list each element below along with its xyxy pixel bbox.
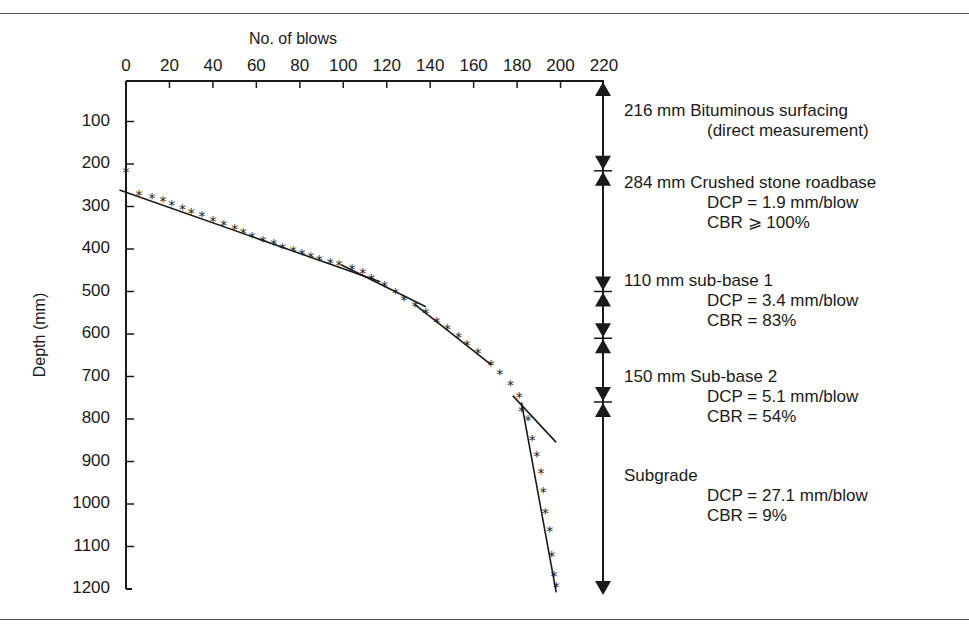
data-point-star: * <box>249 229 256 245</box>
data-point-star: * <box>392 285 399 301</box>
data-point-star: * <box>488 357 495 373</box>
arrow-down-icon <box>595 581 611 595</box>
data-point-star: * <box>335 257 342 273</box>
data-point-star: * <box>179 201 186 217</box>
data-point-star: * <box>199 208 206 224</box>
y-tick-label: 1000 <box>50 493 110 513</box>
data-point-star: * <box>279 240 286 256</box>
data-point-star: * <box>529 432 536 448</box>
annotation-head: 216 mm Bituminous surfacing <box>624 101 869 121</box>
data-point-star: * <box>298 246 305 262</box>
y-tick-label: 100 <box>50 111 110 131</box>
data-point-star: * <box>290 243 297 259</box>
x-tick-label: 60 <box>247 56 266 76</box>
data-point-star: * <box>542 505 549 521</box>
data-point-star: * <box>270 236 277 252</box>
arrow-down-icon <box>595 323 611 337</box>
data-point-star: * <box>411 298 418 314</box>
x-tick-label: 140 <box>416 56 444 76</box>
x-tick-label: 180 <box>503 56 531 76</box>
data-point-star: * <box>231 221 238 237</box>
data-point-star: * <box>537 465 544 481</box>
data-point-star: * <box>546 523 553 539</box>
y-tick-label: 1200 <box>50 578 110 598</box>
annotation-line: CBR = 83% <box>624 311 858 331</box>
data-point-star: * <box>553 579 560 595</box>
y-tick-label: 700 <box>50 366 110 386</box>
annotation-head: 110 mm sub-base 1 <box>624 271 858 291</box>
data-point-star: * <box>159 193 166 209</box>
data-point-star: * <box>316 252 323 268</box>
x-tick-label: 120 <box>373 56 401 76</box>
x-tick-label: 80 <box>290 56 309 76</box>
arrow-up-icon <box>595 293 611 307</box>
x-tick-label: 160 <box>459 56 487 76</box>
annotation-line: DCP = 3.4 mm/blow <box>624 291 858 311</box>
y-tick-label: 1100 <box>50 536 110 556</box>
data-point-star: * <box>123 164 130 180</box>
data-point-star: * <box>136 187 143 203</box>
data-point-star: * <box>533 448 540 464</box>
x-tick-label: 220 <box>590 56 618 76</box>
y-tick-label: 400 <box>50 238 110 258</box>
data-point-star: * <box>422 305 429 321</box>
annotation-roadbase: 284 mm Crushed stone roadbase DCP = 1.9 … <box>624 173 876 233</box>
x-axis-title: No. of blows <box>249 30 337 48</box>
data-point-star: * <box>259 233 266 249</box>
x-tick-label: 40 <box>203 56 222 76</box>
annotation-line: (direct measurement) <box>624 121 869 141</box>
y-tick-label: 600 <box>50 323 110 343</box>
annotation-line: CBR = 9% <box>624 506 868 526</box>
y-tick-label: 300 <box>50 196 110 216</box>
annotation-head: 284 mm Crushed stone roadbase <box>624 173 876 193</box>
x-tick-label: 20 <box>160 56 179 76</box>
data-point-star: * <box>240 225 247 241</box>
data-point-star: * <box>381 278 388 294</box>
annotation-head: Subgrade <box>624 466 868 486</box>
data-point-star: * <box>433 314 440 330</box>
annotation-head: 150 mm Sub-base 2 <box>624 367 858 387</box>
data-point-star: * <box>464 337 471 353</box>
data-point-star: * <box>359 265 366 281</box>
annotation-bituminous: 216 mm Bituminous surfacing (direct meas… <box>624 101 869 141</box>
data-point-star: * <box>507 377 514 393</box>
arrow-up-icon <box>595 82 611 96</box>
data-point-star: * <box>327 255 334 271</box>
y-tick-label: 800 <box>50 408 110 428</box>
data-point-star: * <box>496 366 503 382</box>
annotation-line: DCP = 27.1 mm/blow <box>624 486 868 506</box>
annotation-subbase-2: 150 mm Sub-base 2 DCP = 5.1 mm/blow CBR … <box>624 367 858 427</box>
data-point-star: * <box>307 249 314 265</box>
data-point-star: * <box>209 213 216 229</box>
data-point-star: * <box>149 190 156 206</box>
data-point-star: * <box>220 217 227 233</box>
data-point-star: * <box>188 205 195 221</box>
arrow-down-icon <box>595 277 611 291</box>
data-point-star: * <box>474 345 481 361</box>
x-tick-label: 0 <box>121 56 130 76</box>
data-point-star: * <box>348 261 355 277</box>
data-point-star: * <box>168 197 175 213</box>
data-point-star: * <box>524 412 531 428</box>
arrow-up-icon <box>595 172 611 186</box>
data-point-star: * <box>401 292 408 308</box>
arrow-down-icon <box>595 156 611 170</box>
annotation-subgrade: Subgrade DCP = 27.1 mm/blow CBR = 9% <box>624 466 868 526</box>
y-axis-title: Depth (mm) <box>31 293 49 377</box>
data-point-star: * <box>455 329 462 345</box>
annotation-line: DCP = 5.1 mm/blow <box>624 387 858 407</box>
y-tick-label: 900 <box>50 451 110 471</box>
data-point-star: * <box>548 548 555 564</box>
arrow-up-icon <box>595 403 611 417</box>
arrow-down-icon <box>595 387 611 401</box>
y-tick-label: 500 <box>50 281 110 301</box>
data-point-star: * <box>444 321 451 337</box>
x-tick-label: 200 <box>546 56 574 76</box>
y-tick-label: 200 <box>50 153 110 173</box>
arrow-up-icon <box>595 339 611 353</box>
data-point-star: * <box>540 484 547 500</box>
annotation-subbase-1: 110 mm sub-base 1 DCP = 3.4 mm/blow CBR … <box>624 271 858 331</box>
annotation-line: CBR ⩾ 100% <box>624 213 876 233</box>
annotation-line: CBR = 54% <box>624 407 858 427</box>
x-tick-label: 100 <box>329 56 357 76</box>
